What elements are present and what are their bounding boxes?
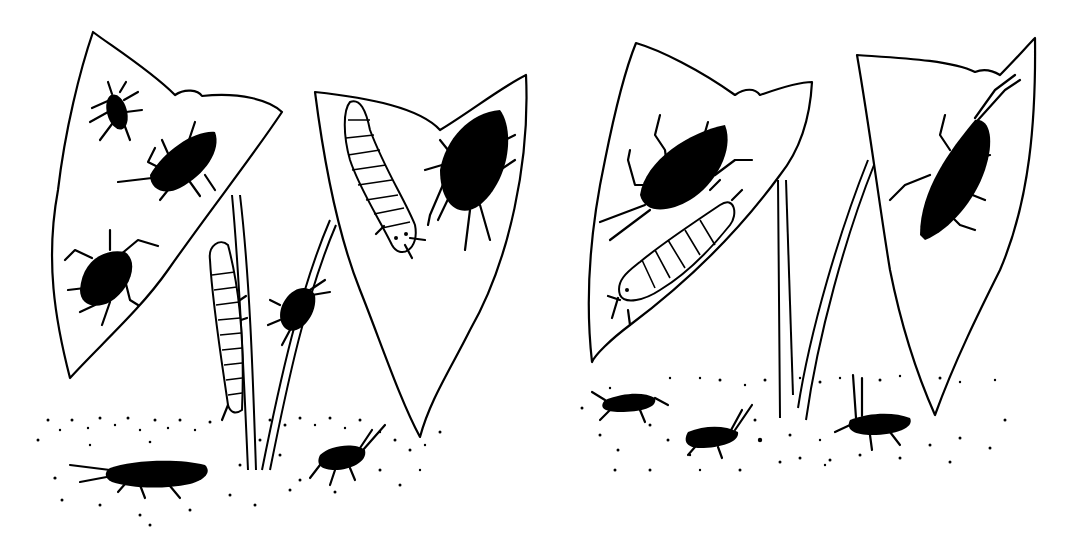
insects-on-leaves-drawing [0, 0, 1080, 548]
stem [270, 225, 336, 470]
small-ground-bug-icon [310, 425, 385, 485]
soil-left [37, 417, 442, 527]
stem [806, 165, 874, 420]
stem [786, 180, 793, 395]
ground-bug-1-icon [592, 392, 668, 422]
stem [798, 160, 868, 408]
right-panel [581, 38, 1036, 472]
left-leaf [52, 32, 282, 378]
ground-bug-2-icon [686, 405, 752, 458]
stem [778, 180, 780, 418]
left-panel [37, 32, 527, 527]
stem [262, 220, 330, 470]
climbing-larva-icon [210, 242, 247, 420]
illustration-canvas [0, 0, 1080, 548]
ground-bug-3-icon [835, 375, 911, 450]
ground-beetle-icon [70, 461, 208, 498]
